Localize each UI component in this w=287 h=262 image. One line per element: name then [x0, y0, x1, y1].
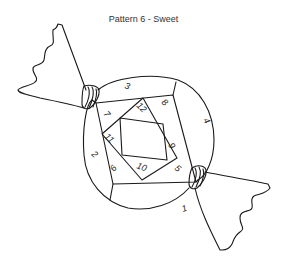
piece-label: 5 [173, 163, 184, 175]
piece-label: 3 [123, 80, 131, 91]
sweet-pattern-drawing: 1 2 3 4 5 6 7 8 9 10 11 12 [0, 0, 287, 262]
piece-label: 12 [135, 100, 149, 114]
right-wrapper [195, 172, 270, 250]
piece-label: 8 [160, 97, 170, 108]
piece-label: 7 [101, 109, 113, 120]
inner-square [120, 118, 167, 160]
piece-label: 6 [108, 163, 119, 173]
piece-label: 4 [201, 116, 212, 125]
left-wrapper [18, 24, 86, 108]
piece-label: 10 [135, 160, 148, 173]
piece-numbers: 1 2 3 4 5 6 7 8 9 10 11 12 [89, 80, 212, 213]
piece-label: 1 [180, 203, 188, 214]
piece-label: 2 [89, 148, 100, 160]
